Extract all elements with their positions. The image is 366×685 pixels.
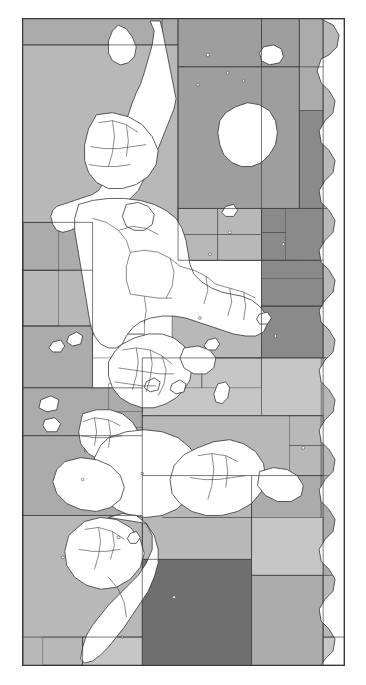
ocean-cell: [262, 306, 324, 358]
ocean-cell: [178, 19, 261, 67]
land-iceland: [260, 45, 284, 65]
ocean-cell: [23, 270, 93, 326]
ocean-cell: [142, 559, 251, 665]
ocean-cell: [252, 517, 324, 575]
ocean-cell: [262, 358, 324, 416]
page-root: [0, 0, 366, 685]
world-map-figure: [22, 18, 345, 666]
ocean-cell: [262, 208, 324, 260]
ocean-cell: [252, 575, 324, 665]
figure-caption: [0, 0, 366, 18]
ocean-cell: [23, 19, 162, 45]
map-canvas: [23, 19, 344, 665]
ocean-cell: [262, 260, 324, 306]
